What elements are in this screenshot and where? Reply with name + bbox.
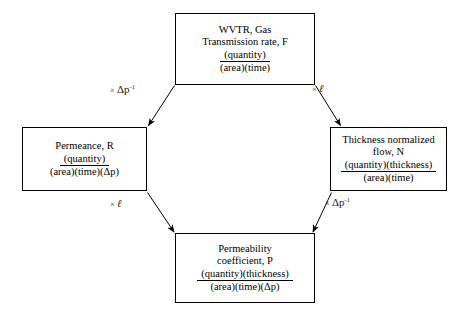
node-wvtr-gas-transmission-rate: WVTR, Gas Transmission rate, F (quantity… [175,13,315,85]
node-permeance: Permeance, R (quantity) (area)(time)(Δp) [22,127,147,191]
multiply-sign: × [325,199,330,208]
node-permeability-coefficient: Permeability coefficient, P (quantity)(t… [175,233,315,303]
node-top-title: WVTR, Gas Transmission rate, F [202,24,288,49]
edge-label-top-right: × ℓ [312,83,323,94]
node-top-fraction: (quantity) (area)(time) [216,49,274,74]
node-top-denominator: (area)(time) [216,62,274,74]
ell-thickness-symbol: ℓ [117,198,121,209]
multiply-sign: × [110,86,115,95]
node-right-denominator: (area)(time) [359,172,417,184]
permeation-units-diagram: WVTR, Gas Transmission rate, F (quantity… [0,0,470,316]
edge-label-top-left: × Δp-1 [110,83,135,95]
exponent: -1 [344,196,349,203]
node-left-denominator: (area)(time)(Δp) [46,166,123,178]
delta-p-symbol: Δp [117,83,130,95]
node-bottom-title: Permeability coefficient, P [217,243,273,268]
node-bottom-numerator: (quantity)(thickness) [197,268,292,281]
node-bottom-fraction: (quantity)(thickness) (area)(time)(Δp) [197,268,292,293]
delta-p-symbol: Δp [332,196,345,208]
node-right-title: Thickness normalized flow, N [342,134,434,159]
node-bottom-denominator: (area)(time)(Δp) [206,281,283,293]
node-left-title: Permeance, R [55,140,113,152]
multiply-sign: × [312,85,317,94]
node-right-fraction: (quantity)(thickness) (area)(time) [341,159,436,184]
ell-thickness-symbol: ℓ [319,83,323,94]
edge-top-left-line [149,86,175,126]
node-top-numerator: (quantity) [220,49,269,62]
node-left-numerator: (quantity) [60,153,109,166]
edge-left-bottom-line [148,193,175,233]
node-thickness-normalized-flow: Thickness normalized flow, N (quantity)(… [330,127,447,191]
multiply-sign: × [110,200,115,209]
exponent: -1 [129,83,134,90]
node-right-numerator: (quantity)(thickness) [341,159,436,172]
edge-label-right-bottom: × Δp-1 [325,196,350,208]
node-left-fraction: (quantity) (area)(time)(Δp) [46,153,123,178]
edge-label-left-bottom: × ℓ [110,198,121,209]
